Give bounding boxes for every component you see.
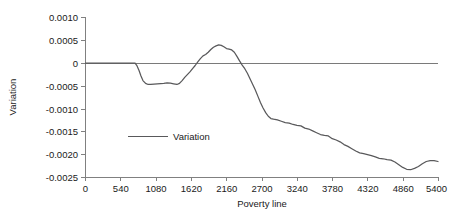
variation-line-chart: 0.0010 0.0005 0 -0.0005 -0.0010 -0.0015 … [0,0,454,210]
legend-label-variation: Variation [173,131,210,142]
y-tick-label: -0.0025 [46,172,78,183]
x-tick-label: 2160 [216,183,237,194]
y-tick-label: 0.0005 [49,35,78,46]
y-axis-tick-labels: 0.0010 0.0005 0 -0.0005 -0.0010 -0.0015 … [46,12,78,183]
y-tick-label: -0.0015 [46,126,78,137]
x-tick-label: 4860 [393,183,414,194]
x-tick-label: 0 [83,183,88,194]
x-tick-label: 5400 [426,183,447,194]
x-tick-label: 1620 [181,183,202,194]
y-axis-title: Variation [7,79,18,116]
x-axis-title: Poverty line [237,198,287,209]
x-tick-label: 3780 [322,183,343,194]
plot-area-background [85,17,438,177]
x-tick-label: 4320 [357,183,378,194]
chart-container: 0.0010 0.0005 0 -0.0005 -0.0010 -0.0015 … [0,0,454,210]
x-tick-label: 3240 [287,183,308,194]
y-axis-ticks [81,18,85,178]
y-tick-label: 0.0010 [49,12,78,23]
y-tick-label: 0 [73,58,78,69]
y-tick-label: -0.0020 [46,149,78,160]
x-tick-label: 2700 [251,183,272,194]
x-tick-label: 1080 [146,183,167,194]
y-tick-label: -0.0005 [46,81,78,92]
y-tick-label: -0.0010 [46,104,78,115]
x-axis-tick-labels: 0 540 1080 1620 2160 2700 3240 3780 4320… [83,183,447,194]
x-tick-label: 540 [113,183,129,194]
